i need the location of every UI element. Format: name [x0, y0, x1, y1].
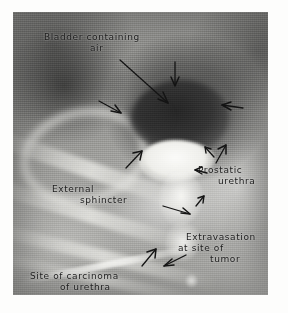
- label-external-line1: External: [52, 184, 94, 194]
- label-external-sphincter: Externalsphincter: [52, 184, 127, 206]
- label-bladder-line2: air: [90, 43, 140, 54]
- label-site-of-carcinoma-of-urethra: Site of carcinomaof urethra: [30, 271, 119, 293]
- label-bladder-containing-air: Bladder containingair: [44, 32, 140, 54]
- label-extrav-line1: Extravasation: [186, 232, 256, 242]
- label-prostatic-urethra: Prostaticurethra: [198, 165, 255, 187]
- radiograph-figure: Bladder containingair Prostaticurethra E…: [0, 0, 288, 313]
- label-prostatic-line2: urethra: [218, 176, 255, 187]
- label-site-line2: of urethra: [60, 282, 119, 293]
- label-external-line2: sphincter: [80, 195, 127, 206]
- label-site-line1: Site of carcinoma: [30, 271, 119, 281]
- label-extravasation-at-site-of-tumor: Extravasationat site oftumor: [186, 232, 256, 265]
- label-bladder-line1: Bladder containing: [44, 32, 140, 42]
- label-extrav-line3: tumor: [210, 254, 256, 265]
- label-prostatic-line1: Prostatic: [198, 165, 242, 175]
- label-extrav-line2: at site of: [178, 243, 256, 254]
